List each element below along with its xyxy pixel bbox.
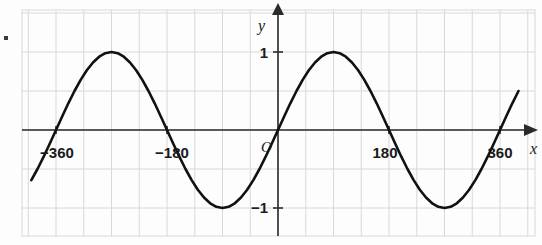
- x-tick-label--180: −180: [155, 144, 189, 161]
- x-tick-label-180: 180: [372, 144, 397, 161]
- x-tick-label--360: −360: [40, 144, 74, 161]
- x-tick-label-360: 360: [487, 144, 512, 161]
- y-tick-label--1: −1: [251, 199, 268, 216]
- corner-mark-icon: [4, 36, 8, 40]
- y-axis-label: y: [256, 17, 266, 35]
- graph-canvas: x y O −360 −180 180 360 1 −1: [0, 0, 542, 245]
- x-axis-label: x: [529, 140, 537, 157]
- sine-graph-figure: x y O −360 −180 180 360 1 −1: [0, 0, 542, 245]
- origin-label: O: [261, 139, 272, 155]
- y-tick-label-1: 1: [260, 44, 268, 61]
